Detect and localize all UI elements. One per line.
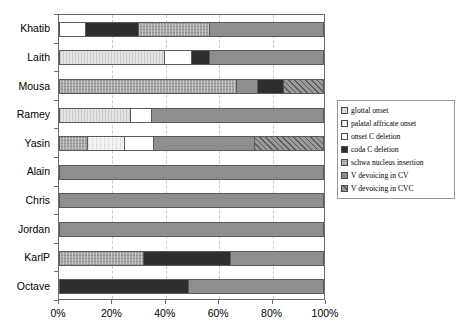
y-axis-category-labels: KhatibLaithMousaRameyYasinAlainChrisJord… — [0, 14, 54, 300]
legend-label: onset C deletion — [351, 132, 400, 141]
legend-item-onsetdel: onset C deletion — [341, 130, 452, 143]
bar-segment-vcv — [189, 279, 324, 294]
bar-segment-vcvc — [284, 79, 324, 94]
legend-item-palatal: palatal affricate onset — [341, 117, 452, 130]
bar-segment-schwa — [139, 22, 211, 37]
bar-row — [59, 222, 324, 237]
bar-segment-vcv — [231, 251, 324, 266]
y-axis-tick — [54, 271, 58, 272]
bar-track-jordan — [59, 222, 324, 237]
bar-segment-schwa — [59, 251, 144, 266]
y-axis-label-mousa: Mousa — [0, 80, 54, 92]
bar-segment-vcv — [59, 222, 324, 237]
legend-item-glottal: glottal onset — [341, 104, 452, 117]
y-axis-label-ramey: Ramey — [0, 108, 54, 120]
y-axis-tick — [54, 243, 58, 244]
plot-area — [58, 14, 325, 300]
y-axis-label-yasin: Yasin — [0, 137, 54, 149]
legend-label: palatal affricate onset — [351, 119, 416, 128]
bar-row — [59, 193, 324, 208]
legend-label: glottal onset — [351, 106, 388, 115]
x-axis-tick-20 — [111, 300, 112, 304]
x-axis-tick-label-20: 20% — [91, 307, 131, 319]
bar-track-khatib — [59, 22, 324, 37]
bar-segment-codadel — [144, 251, 231, 266]
bar-segment-onsetdel — [125, 136, 154, 151]
y-axis-label-karlp: KarlP — [0, 251, 54, 263]
bar-track-chris — [59, 193, 324, 208]
x-axis-tick-label-100: 100% — [305, 307, 345, 319]
legend-swatch-vcvc-icon — [341, 185, 348, 192]
bar-row — [59, 50, 324, 65]
bar-track-mousa — [59, 79, 324, 94]
legend-label: V devoicing in CV — [351, 171, 408, 180]
x-axis-tick-40 — [165, 300, 166, 304]
x-axis: 0%20%40%60%80%100% — [58, 300, 325, 301]
legend-label: schwa nucleus insertion — [351, 158, 424, 167]
y-axis-tick — [54, 128, 58, 129]
bar-track-alain — [59, 165, 324, 180]
bar-row — [59, 165, 324, 180]
bar-row — [59, 108, 324, 123]
bar-row — [59, 79, 324, 94]
bar-segment-vcv — [59, 165, 324, 180]
stacked-bar-chart: KhatibLaithMousaRameyYasinAlainChrisJord… — [0, 0, 457, 334]
y-axis-tick — [54, 43, 58, 44]
y-axis-label-alain: Alain — [0, 165, 54, 177]
x-axis-tick-label-60: 60% — [198, 307, 238, 319]
y-axis-tick — [54, 100, 58, 101]
bar-track-laith — [59, 50, 324, 65]
x-axis-tick-0 — [58, 300, 59, 304]
y-axis-label-octave: Octave — [0, 280, 54, 292]
legend-label: coda C deletion — [351, 145, 399, 154]
y-axis-tick — [54, 214, 58, 215]
bar-segment-codadel — [86, 22, 139, 37]
bar-track-ramey — [59, 108, 324, 123]
bar-segment-schwa — [59, 79, 237, 94]
x-axis-tick-60 — [218, 300, 219, 304]
legend-label: V devoicing in CVC — [351, 184, 414, 193]
bar-segment-glottal — [59, 50, 165, 65]
bar-track-karlp — [59, 251, 324, 266]
bar-segment-glottal — [59, 108, 131, 123]
bar-segment-onsetdel — [131, 108, 152, 123]
bar-segment-onsetdel — [165, 50, 192, 65]
x-axis-tick-100 — [325, 300, 326, 304]
y-axis-tick — [54, 14, 58, 15]
x-axis-tick-80 — [272, 300, 273, 304]
y-axis-tick — [54, 186, 58, 187]
y-axis-tick — [54, 300, 58, 301]
x-axis-tick-label-40: 40% — [145, 307, 185, 319]
bar-segment-vcv — [154, 136, 255, 151]
legend-swatch-vcv-icon — [341, 172, 348, 179]
legend-swatch-onsetdel-icon — [341, 133, 348, 140]
legend-swatch-schwa-icon — [341, 159, 348, 166]
bar-row — [59, 22, 324, 37]
bar-segment-vcv — [152, 108, 324, 123]
bar-track-yasin — [59, 136, 324, 151]
legend-item-vcvc: V devoicing in CVC — [341, 182, 452, 195]
bar-row — [59, 279, 324, 294]
legend-item-codadel: coda C deletion — [341, 143, 452, 156]
bar-segment-vcvc — [255, 136, 324, 151]
bar-segment-vcv — [59, 193, 324, 208]
legend-swatch-palatal-icon — [341, 120, 348, 127]
legend-swatch-glottal-icon — [341, 107, 348, 114]
legend-item-schwa: schwa nucleus insertion — [341, 156, 452, 169]
legend: glottal onsetpalatal affricate onsetonse… — [337, 100, 455, 199]
y-axis-label-chris: Chris — [0, 194, 54, 206]
legend-item-vcv: V devoicing in CV — [341, 169, 452, 182]
x-axis-tick-label-80: 80% — [252, 307, 292, 319]
legend-swatch-codadel-icon — [341, 146, 348, 153]
bar-row — [59, 251, 324, 266]
bar-segment-vcv — [210, 22, 324, 37]
bar-row — [59, 136, 324, 151]
bar-segment-schwa — [59, 136, 88, 151]
bar-segment-vcv — [237, 79, 258, 94]
y-axis-tick — [54, 157, 58, 158]
x-axis-tick-label-0: 0% — [38, 307, 78, 319]
bar-rows — [59, 15, 324, 299]
bar-segment-palatal — [88, 136, 125, 151]
bar-segment-vcv — [210, 50, 324, 65]
y-axis-label-laith: Laith — [0, 51, 54, 63]
